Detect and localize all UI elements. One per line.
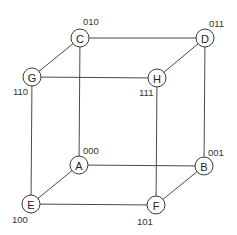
- node-label: E: [27, 199, 34, 211]
- node-code-B: 001: [208, 147, 224, 158]
- node-B: B: [195, 157, 213, 175]
- edge-D-B: [204, 38, 205, 166]
- edge-G-H: [32, 77, 157, 78]
- node-label: C: [76, 33, 84, 45]
- node-H: H: [148, 69, 166, 87]
- codes-layer: 010011110111000001100101: [12, 16, 224, 227]
- node-E: E: [22, 195, 40, 213]
- edge-E-F: [31, 204, 156, 205]
- node-code-C: 010: [83, 16, 99, 27]
- node-F: F: [147, 196, 165, 214]
- edge-G-E: [31, 77, 32, 204]
- edge-H-F: [156, 78, 157, 205]
- node-C: C: [71, 29, 89, 47]
- node-label: F: [153, 200, 160, 212]
- edge-C-A: [79, 38, 80, 165]
- edges-layer: [31, 38, 205, 205]
- node-D: D: [196, 29, 214, 47]
- node-code-D: 011: [209, 18, 224, 29]
- node-code-F: 101: [137, 216, 153, 227]
- node-code-G: 110: [13, 86, 28, 97]
- node-label: H: [153, 73, 161, 85]
- nodes-layer: CDGHABEF: [22, 29, 214, 214]
- cube-diagram: CDGHABEF 010011110111000001100101: [0, 0, 237, 235]
- node-label: A: [75, 160, 83, 172]
- node-A: A: [70, 156, 88, 174]
- node-label: G: [28, 72, 37, 84]
- node-code-H: 111: [139, 87, 153, 98]
- node-label: B: [200, 161, 207, 173]
- node-label: D: [201, 33, 209, 45]
- node-code-A: 000: [83, 145, 99, 156]
- edge-A-B: [79, 165, 204, 166]
- node-G: G: [23, 68, 41, 86]
- node-code-E: 100: [12, 214, 28, 225]
